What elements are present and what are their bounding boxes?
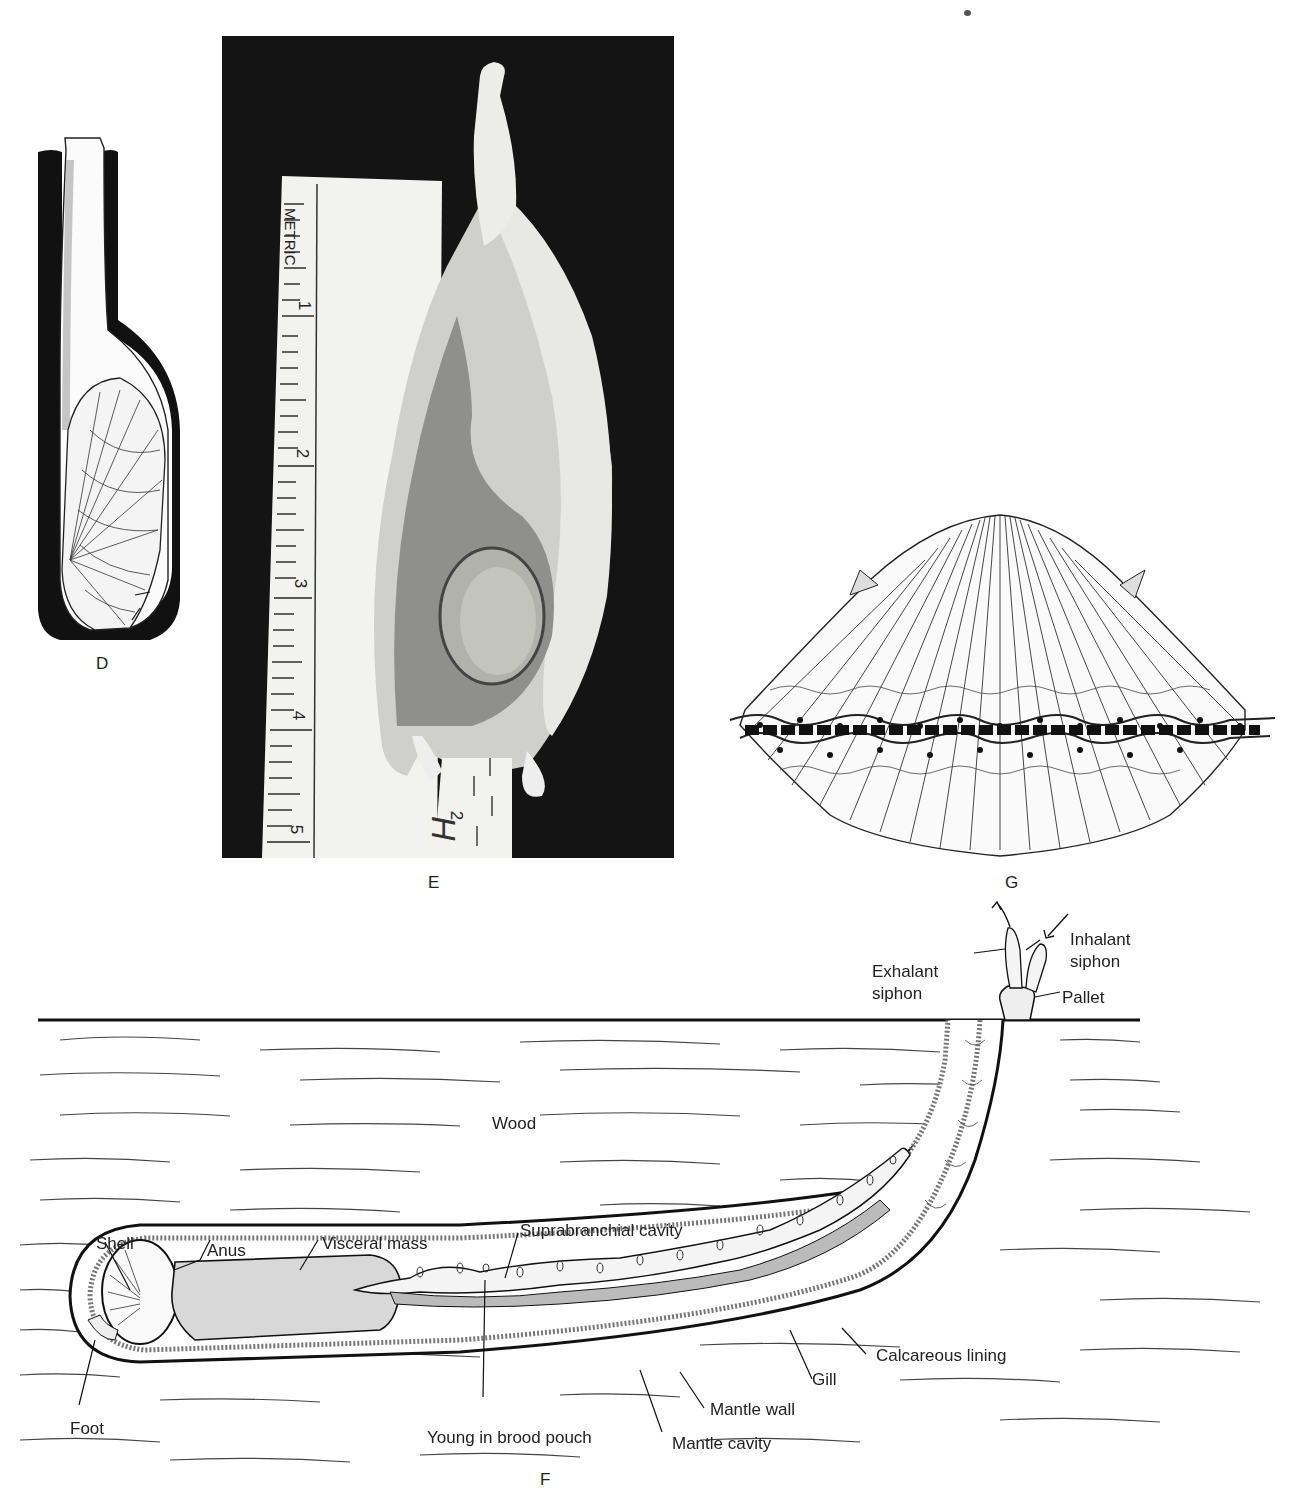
panel-d: D	[0, 130, 220, 730]
print-speck	[964, 10, 971, 16]
panel-label-d: D	[96, 654, 108, 674]
label-anus: Anus	[207, 1241, 246, 1260]
label-wood: Wood	[492, 1114, 536, 1133]
panel-label-e: E	[428, 873, 439, 893]
ruler-mark-4: 4	[289, 711, 308, 720]
label-visceral-mass: Visceral mass	[322, 1234, 428, 1253]
scallop-shell-illustration	[700, 420, 1300, 900]
label-mantle-cavity: Mantle cavity	[672, 1434, 771, 1453]
ruler-heading: METRIC	[281, 208, 300, 266]
label-mantle-wall: Mantle wall	[710, 1400, 795, 1419]
label-calcareous-lining: Calcareous lining	[876, 1346, 1006, 1365]
label-inhalant-siphon-line1: Inhalant	[1070, 930, 1131, 949]
label-foot: Foot	[70, 1419, 104, 1438]
shipworm-shell-in-burrow-illustration	[0, 130, 220, 730]
ruler-mark-3: 3	[291, 579, 310, 588]
ruler-mark-5: 5	[287, 825, 306, 834]
label-gill: Gill	[812, 1370, 837, 1389]
label-pallet: Pallet	[1062, 988, 1105, 1007]
shipworm-burrow-diagram	[0, 900, 1311, 1503]
panel-label-f: F	[540, 1470, 550, 1490]
panel-f: Exhalant siphon Inhalant siphon Pallet W…	[0, 900, 1311, 1503]
label-young-in-brood-pouch: Young in brood pouch	[427, 1428, 592, 1447]
ruler-mark-1: 1	[295, 301, 314, 310]
label-inhalant-siphon-line2: siphon	[1070, 952, 1120, 971]
panel-g	[700, 420, 1300, 900]
panel-e: H METRIC 1 2 3 4 5 2	[222, 36, 674, 858]
ruler-mark-2: 2	[293, 449, 312, 458]
shell-photograph: H	[222, 36, 674, 858]
label-exhalant-siphon-line1: Exhalant	[872, 962, 938, 981]
ruler-secondary-mark: 2	[447, 811, 466, 820]
label-shell: Shell	[96, 1234, 134, 1253]
label-exhalant-siphon-line2: siphon	[872, 984, 922, 1003]
label-suprabranchial-cavity: Suprabranchial cavity	[520, 1221, 683, 1240]
panel-label-g: G	[1005, 873, 1018, 893]
